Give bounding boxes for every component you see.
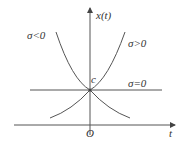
sigma-negative-label: σ<0	[27, 30, 45, 41]
sigma-zero-label: σ=0	[128, 78, 146, 89]
origin-label: O	[86, 128, 94, 139]
t-axis-label: t	[169, 128, 172, 139]
sigma-positive-curve	[50, 32, 125, 118]
intercept-label: c	[91, 74, 96, 85]
intercept-point	[88, 88, 91, 91]
y-axis-label: x(t)	[96, 10, 111, 21]
sigma-positive-label: σ>0	[128, 38, 146, 49]
